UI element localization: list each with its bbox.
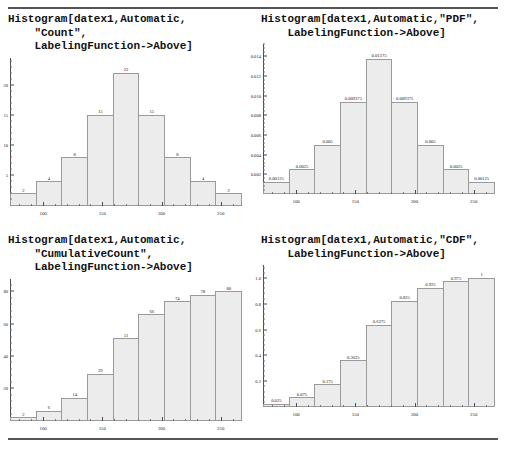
y-tick-minor bbox=[10, 336, 12, 337]
y-tick-minor bbox=[263, 401, 265, 402]
x-tick-minor bbox=[19, 419, 20, 421]
y-tick bbox=[10, 291, 14, 292]
notebook-cell-pdf[interactable]: Histogram[datex1,Automatic,"PDF", Labeli… bbox=[253, 8, 506, 237]
histogram-bar: 0.0025 bbox=[289, 169, 316, 194]
y-tick-minor bbox=[263, 158, 265, 159]
y-tick-minor bbox=[263, 83, 265, 84]
histogram-cumulativecount[interactable]: 2614295166747880 20406080 100150200250 bbox=[10, 279, 242, 421]
bar-value-label: 0.925 bbox=[425, 282, 435, 288]
y-tick bbox=[10, 84, 14, 85]
histogram-bar: 2 bbox=[10, 417, 37, 420]
x-tick-minor bbox=[343, 405, 344, 407]
x-tick-label: 150 bbox=[99, 211, 106, 217]
x-tick-label: 100 bbox=[40, 426, 47, 432]
notebook-cell-count[interactable]: Histogram[datex1,Automatic, "Count", Lab… bbox=[0, 8, 253, 237]
y-tick-minor bbox=[263, 386, 265, 387]
histogram-bar: 74 bbox=[164, 301, 191, 420]
y-tick-minor bbox=[263, 91, 265, 92]
y-tick-minor bbox=[263, 376, 265, 377]
y-tick-minor bbox=[10, 126, 12, 127]
x-tick-label: 250 bbox=[470, 199, 477, 205]
bar-value-label: 0.00125 bbox=[269, 176, 284, 182]
x-tick-label: 100 bbox=[293, 412, 300, 418]
histogram-bar: 0.975 bbox=[443, 281, 470, 407]
input-code-count[interactable]: Histogram[datex1,Automatic, "Count", Lab… bbox=[0, 8, 253, 54]
bar-value-label: 4 bbox=[48, 176, 50, 182]
y-tick-minor bbox=[263, 324, 265, 325]
y-tick-minor bbox=[10, 72, 12, 73]
y-tick-minor bbox=[263, 64, 265, 65]
y-tick-label: 20 bbox=[3, 386, 10, 391]
x-tick-minor bbox=[150, 419, 151, 421]
bar-value-label: 0.075 bbox=[297, 392, 307, 398]
y-tick-label: 0.8 bbox=[255, 301, 263, 306]
x-tick-minor bbox=[320, 405, 321, 407]
y-tick bbox=[263, 355, 267, 356]
y-tick-label: 0.4 bbox=[255, 353, 263, 358]
y-tick-minor bbox=[263, 319, 265, 320]
x-tick-minor bbox=[185, 204, 186, 206]
x-tick-label: 200 bbox=[411, 412, 418, 418]
y-tick-label: 0.012 bbox=[251, 73, 263, 78]
x-tick-minor bbox=[55, 204, 56, 206]
y-tick-minor bbox=[263, 396, 265, 397]
histogram-cdf[interactable]: 0.0250.0750.1750.36250.63750.8250.9250.9… bbox=[263, 265, 495, 407]
y-tick-minor bbox=[263, 60, 265, 61]
histogram-bar: 29 bbox=[87, 374, 114, 421]
bar-value-label: 66 bbox=[149, 309, 154, 315]
y-tick bbox=[10, 175, 14, 176]
bar-value-label: 0.3625 bbox=[347, 355, 360, 361]
histogram-count[interactable]: 248152215842 5101520 100150200250 bbox=[10, 58, 242, 206]
x-tick-minor bbox=[284, 405, 285, 407]
histogram-bar: 0.005 bbox=[314, 145, 341, 194]
x-tick-label: 250 bbox=[470, 412, 477, 418]
y-tick-minor bbox=[10, 407, 12, 408]
y-tick-label: 0.014 bbox=[251, 54, 263, 59]
x-tick-minor bbox=[114, 419, 115, 421]
y-tick-minor bbox=[263, 360, 265, 361]
bar-value-label: 1 bbox=[481, 272, 483, 278]
bar-value-label: 15 bbox=[98, 109, 103, 115]
histogram-bar: 80 bbox=[215, 291, 242, 420]
input-code-cumulativecount[interactable]: Histogram[datex1,Automatic, "CumulativeC… bbox=[0, 229, 253, 275]
y-tick-minor bbox=[263, 370, 265, 371]
y-tick-minor bbox=[263, 127, 265, 128]
x-tick-label: 200 bbox=[411, 199, 418, 205]
histogram-bar: 66 bbox=[138, 314, 165, 421]
notebook-cell-cdf[interactable]: Histogram[datex1,Automatic,"CDF", Labeli… bbox=[253, 229, 506, 458]
x-tick bbox=[43, 417, 44, 421]
y-tick bbox=[10, 355, 14, 356]
y-tick-minor bbox=[263, 345, 265, 346]
x-tick-minor bbox=[462, 405, 463, 407]
histogram-bar: 15 bbox=[87, 115, 114, 206]
x-tick-minor bbox=[320, 192, 321, 194]
x-tick-minor bbox=[332, 192, 333, 194]
y-tick-minor bbox=[263, 150, 265, 151]
y-tick-minor bbox=[263, 334, 265, 335]
input-code-cdf[interactable]: Histogram[datex1,Automatic,"CDF", Labeli… bbox=[253, 229, 506, 261]
y-tick-minor bbox=[263, 272, 265, 273]
y-tick-minor bbox=[10, 193, 12, 194]
bar-value-label: 80 bbox=[226, 286, 231, 292]
histogram-bar: 0.0025 bbox=[443, 169, 470, 194]
y-tick bbox=[263, 134, 267, 135]
x-tick-minor bbox=[126, 204, 127, 206]
input-code-pdf[interactable]: Histogram[datex1,Automatic,"PDF", Labeli… bbox=[253, 8, 506, 40]
y-tick-minor bbox=[10, 60, 12, 61]
bar-value-label: 4 bbox=[202, 176, 204, 182]
histogram-bar: 0.01375 bbox=[366, 59, 393, 194]
y-tick-minor bbox=[263, 293, 265, 294]
y-tick-minor bbox=[263, 87, 265, 88]
y-tick bbox=[10, 388, 14, 389]
notebook-cell-cumulativecount[interactable]: Histogram[datex1,Automatic, "CumulativeC… bbox=[0, 229, 253, 458]
x-tick-minor bbox=[55, 419, 56, 421]
bar-value-label: 0.0025 bbox=[450, 164, 463, 170]
y-tick bbox=[263, 75, 267, 76]
x-tick-minor bbox=[90, 204, 91, 206]
x-tick bbox=[296, 403, 297, 407]
y-tick-minor bbox=[263, 99, 265, 100]
histogram-pdf[interactable]: 0.001250.00250.0050.0093750.013750.00937… bbox=[263, 44, 495, 194]
x-tick-label: 100 bbox=[40, 211, 47, 217]
x-tick bbox=[355, 403, 356, 407]
x-tick-minor bbox=[233, 204, 234, 206]
